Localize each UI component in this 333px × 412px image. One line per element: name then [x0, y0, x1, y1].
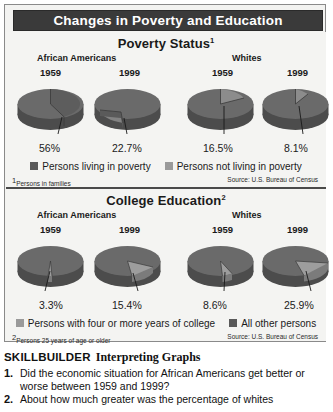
college-year-labels: 1959 1999 1959 1999 — [6, 224, 326, 239]
legend-item-not-living-in-poverty: Persons not living in poverty — [165, 161, 302, 172]
pie-svg — [184, 239, 257, 294]
group-label-whites: Whites — [232, 53, 262, 63]
poverty-pies-row — [6, 82, 326, 142]
poverty-percent-labels: 56% 22.7% 16.5% 8.1% — [6, 142, 326, 157]
pie-svg — [184, 82, 257, 137]
year-label: 1999 — [287, 224, 308, 235]
pie-value-label: 15.4% — [112, 299, 142, 311]
year-label: 1959 — [40, 224, 61, 235]
pie-chart-college-african-americans-1959 — [14, 239, 87, 294]
legend-label: Persons living in poverty — [42, 161, 150, 172]
legend-item-living-in-poverty: Persons living in poverty — [30, 161, 150, 172]
pie-chart-poverty-whites-1959 — [184, 82, 257, 137]
year-label: 1999 — [119, 224, 140, 235]
pie-value-label: 3.3% — [39, 299, 63, 311]
college-source: Source: U.S. Bureau of Census — [227, 333, 318, 340]
group-label-african-americans: African Americans — [37, 53, 116, 63]
legend-item-all-other-persons: All other persons — [229, 318, 316, 329]
college-education-panel: College Education2 African Americans Whi… — [6, 189, 326, 341]
legend-swatch-icon — [30, 162, 38, 170]
legend-label: Persons with four or more years of colle… — [28, 318, 215, 329]
chart-title-bar: Changes in Poverty and Education — [13, 10, 323, 31]
poverty-source: Source: U.S. Bureau of Census — [227, 176, 318, 183]
skillbuilder-section: SKILLBUILDERInterpreting Graphs 1. Did t… — [4, 350, 326, 407]
pie-svg — [259, 82, 332, 137]
year-label: 1959 — [212, 67, 233, 78]
question-text: About how much greater was the percentag… — [20, 393, 273, 405]
year-label: 1959 — [212, 224, 233, 235]
poverty-footnote: 1Persons in families — [12, 176, 71, 187]
legend-label: All other persons — [241, 318, 316, 329]
legend-swatch-icon — [16, 319, 24, 327]
college-title-footnote-marker: 2 — [221, 193, 225, 202]
pie-svg — [14, 82, 87, 137]
legend-item-four-or-more-years-college: Persons with four or more years of colle… — [16, 318, 215, 329]
question-number: 1. — [4, 367, 13, 380]
skillbuilder-heading: SKILLBUILDERInterpreting Graphs — [4, 350, 326, 365]
poverty-status-panel: Poverty Status1 African Americans Whites… — [6, 32, 326, 187]
skillbuilder-question-1: 1. Did the economic situation for Africa… — [4, 367, 326, 392]
poverty-group-labels: African Americans Whites — [6, 53, 326, 66]
year-label: 1999 — [287, 67, 308, 78]
pie-svg — [91, 239, 164, 294]
chart-frame: Changes in Poverty and Education Poverty… — [4, 4, 326, 342]
pie-chart-college-whites-1959 — [184, 239, 257, 294]
skillbuilder-title: SKILLBUILDER — [4, 351, 91, 363]
pie-chart-poverty-african-americans-1959 — [14, 82, 87, 137]
poverty-title-footnote-marker: 1 — [210, 36, 214, 45]
pie-chart-college-whites-1999 — [259, 239, 332, 294]
college-pies-row — [6, 239, 326, 299]
pie-value-label: 25.9% — [284, 299, 314, 311]
college-section-title: College Education2 — [6, 189, 326, 208]
skillbuilder-subtitle: Interpreting Graphs — [96, 350, 201, 364]
pie-value-label: 16.5% — [203, 142, 233, 154]
poverty-education-infographic: Changes in Poverty and Education Poverty… — [0, 0, 333, 412]
college-percent-labels: 3.3% 15.4% 8.6% 25.9% — [6, 299, 326, 314]
chart-title: Changes in Poverty and Education — [53, 13, 282, 28]
pie-chart-poverty-african-americans-1999 — [91, 82, 164, 137]
pie-value-label: 8.1% — [284, 142, 308, 154]
year-label: 1999 — [119, 67, 140, 78]
college-footnote-row: 2Persons 25 years of age or older Source… — [6, 333, 326, 347]
question-text: Did the economic situation for African A… — [20, 367, 305, 392]
group-label-whites: Whites — [232, 210, 262, 220]
legend-swatch-icon — [229, 319, 237, 327]
pie-svg — [259, 239, 332, 294]
pie-value-label: 8.6% — [203, 299, 227, 311]
skillbuilder-question-2: 2. About how much greater was the percen… — [4, 393, 326, 406]
group-label-african-americans: African Americans — [37, 210, 116, 220]
legend-swatch-icon — [165, 162, 173, 170]
pie-svg — [14, 239, 87, 294]
pie-value-label: 22.7% — [112, 142, 142, 154]
college-legend: Persons with four or more years of colle… — [6, 315, 326, 331]
poverty-legend: Persons living in poverty Persons not li… — [6, 158, 326, 174]
pie-value-label: 56% — [39, 142, 60, 154]
poverty-year-labels: 1959 1999 1959 1999 — [6, 67, 326, 82]
legend-label: Persons not living in poverty — [177, 161, 302, 172]
pie-chart-poverty-whites-1999 — [259, 82, 332, 137]
pie-svg — [91, 82, 164, 137]
pie-chart-college-african-americans-1999 — [91, 239, 164, 294]
poverty-section-title: Poverty Status1 — [6, 32, 326, 51]
college-footnote: 2Persons 25 years of age or older — [12, 333, 110, 344]
question-number: 2. — [4, 393, 13, 406]
college-group-labels: African Americans Whites — [6, 210, 326, 223]
year-label: 1959 — [40, 67, 61, 78]
